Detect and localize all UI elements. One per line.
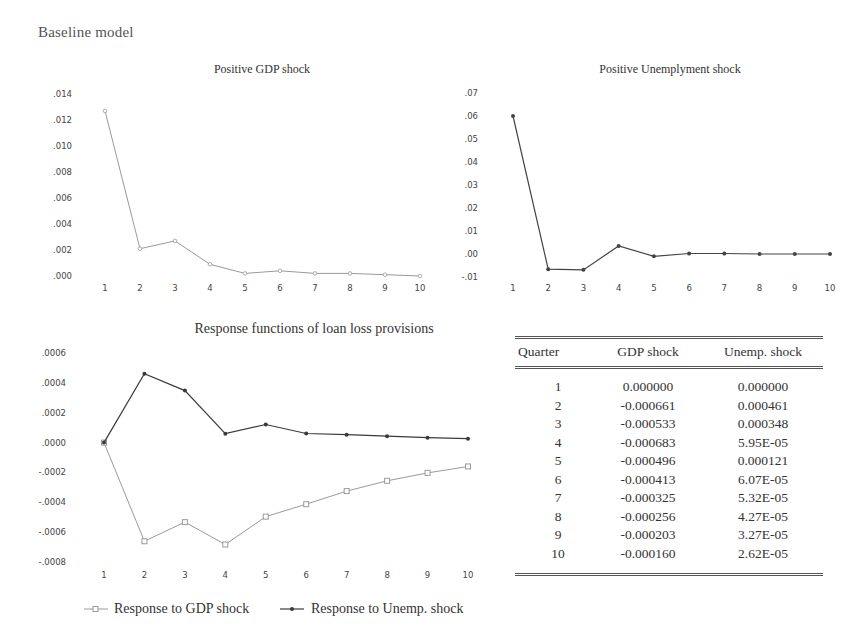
table-row: 4-0.0006835.95E-05 [515, 434, 823, 453]
x-tick-label: 1 [510, 283, 515, 293]
data-point-marker [103, 109, 107, 113]
data-point-marker [383, 273, 387, 277]
cell-unemp-shock: 3.27E-05 [703, 526, 823, 545]
data-point-marker [348, 272, 352, 276]
x-tick-label: 10 [463, 570, 474, 580]
cell-gdp-shock: -0.000533 [593, 415, 703, 434]
x-tick-label: 1 [101, 570, 106, 580]
cell-quarter: 8 [515, 508, 593, 527]
data-point-marker [313, 272, 317, 276]
y-tick-label: .0002 [42, 408, 66, 418]
x-tick-label: 2 [546, 283, 551, 293]
cell-unemp-shock: 0.000121 [703, 452, 823, 471]
y-tick-label: -.0004 [39, 497, 66, 507]
y-axis-ticks: .000.002.004.006.008.010.012.014 [53, 89, 72, 281]
x-tick-label: 8 [384, 570, 389, 580]
table-bottom-rule [515, 575, 823, 579]
cell-unemp-shock: 0.000000 [703, 368, 823, 397]
y-tick-label: .01 [464, 226, 478, 236]
y-tick-label: .0000 [42, 438, 66, 448]
y-tick-label: -.01 [461, 272, 478, 282]
x-tick-label: 6 [686, 283, 691, 293]
x-tick-label: 3 [182, 570, 187, 580]
data-point-marker [722, 252, 726, 256]
chart-gdp-shock: Positive GDP shock .000.002.004.006.008.… [53, 62, 425, 293]
cell-gdp-shock: -0.000496 [593, 452, 703, 471]
table-body: 10.0000000.0000002-0.0006610.0004613-0.0… [515, 368, 823, 575]
table-row: 7-0.0003255.32E-05 [515, 489, 823, 508]
data-point-marker [466, 464, 471, 469]
cell-unemp-shock: 2.62E-05 [703, 545, 823, 575]
x-tick-label: 4 [616, 283, 621, 293]
response-table: Quarter GDP shock Unemp. shock 10.000000… [515, 336, 823, 578]
x-tick-label: 5 [242, 283, 247, 293]
series-line [513, 116, 830, 270]
data-point-marker [426, 436, 430, 440]
data-point-marker [264, 423, 268, 427]
table-row: 10-0.0001602.62E-05 [515, 545, 823, 575]
cell-unemp-shock: 0.000461 [703, 397, 823, 416]
data-point-marker [304, 502, 309, 507]
y-tick-label: -.0006 [39, 527, 66, 537]
cell-gdp-shock: -0.000661 [593, 397, 703, 416]
table-row: 6-0.0004136.07E-05 [515, 471, 823, 490]
table-row: 9-0.0002033.27E-05 [515, 526, 823, 545]
data-point-marker [425, 470, 430, 475]
x-tick-label: 4 [207, 283, 212, 293]
y-tick-label: .004 [53, 219, 72, 229]
x-tick-label: 6 [277, 283, 282, 293]
table-row: 3-0.0005330.000348 [515, 415, 823, 434]
data-point-marker [687, 252, 691, 256]
y-tick-label: .02 [464, 203, 478, 213]
data-point-marker [385, 434, 389, 438]
legend: Response to GDP shock Response to Unemp.… [84, 601, 463, 616]
x-tick-label: 9 [425, 570, 430, 580]
x-tick-label: 9 [792, 283, 797, 293]
cell-gdp-shock: -0.000325 [593, 489, 703, 508]
y-tick-label: -.0008 [39, 557, 66, 567]
y-tick-label: .014 [53, 89, 72, 99]
legend-label-unemp: Response to Unemp. shock [311, 601, 463, 616]
cell-quarter: 5 [515, 452, 593, 471]
cell-unemp-shock: 6.07E-05 [703, 471, 823, 490]
y-tick-label: .002 [53, 245, 72, 255]
series-line [105, 111, 420, 276]
x-axis-ticks: 12345678910 [510, 283, 835, 293]
column-header-gdp-shock: GDP shock [593, 338, 703, 368]
y-axis-ticks: -.0008-.0006-.0004-.0002.0000.0002.0004.… [39, 348, 66, 567]
y-tick-label: .000 [53, 271, 72, 281]
x-tick-label: 3 [172, 283, 177, 293]
x-axis-ticks: 12345678910 [101, 570, 473, 580]
x-tick-label: 5 [651, 283, 656, 293]
chart-unemployment-shock: Positive Unemplyment shock -.01.00.01.02… [461, 62, 835, 293]
x-axis-ticks: 12345678910 [102, 283, 425, 293]
data-point-marker [546, 267, 550, 271]
plot-area [511, 114, 832, 272]
data-point-marker [173, 239, 177, 243]
data-point-marker [142, 372, 146, 376]
data-point-marker [344, 489, 349, 494]
cell-unemp-shock: 0.000348 [703, 415, 823, 434]
y-tick-label: .04 [464, 157, 478, 167]
data-point-marker [652, 254, 656, 258]
table-row: 5-0.0004960.000121 [515, 452, 823, 471]
x-tick-label: 1 [102, 283, 107, 293]
x-tick-label: 8 [757, 283, 762, 293]
data-point-marker [828, 252, 832, 256]
y-tick-label: .03 [464, 180, 478, 190]
x-tick-label: 8 [347, 283, 352, 293]
chart-title: Positive GDP shock [214, 62, 310, 76]
y-tick-label: .006 [53, 193, 72, 203]
x-tick-label: 7 [722, 283, 727, 293]
data-point-marker [223, 542, 228, 547]
data-point-marker [182, 520, 187, 525]
data-point-marker [793, 252, 797, 256]
x-tick-label: 6 [304, 570, 309, 580]
column-header-unemp-shock: Unemp. shock [703, 338, 823, 368]
cell-quarter: 4 [515, 434, 593, 453]
y-tick-label: .010 [53, 141, 72, 151]
data-point-marker [263, 514, 268, 519]
data-point-marker [345, 433, 349, 437]
open-square-marker-icon [93, 607, 98, 612]
legend-label-gdp: Response to GDP shock [114, 601, 249, 616]
